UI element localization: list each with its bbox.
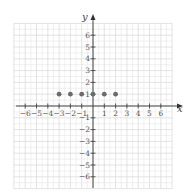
y-axis-label: y — [81, 11, 88, 22]
y-axis-arrow-icon — [91, 14, 96, 20]
y-tick-label: −1 — [79, 113, 90, 122]
y-tick-label: −5 — [79, 161, 90, 170]
y-tick-label: 4 — [85, 54, 90, 63]
coordinate-plane: −6−5−4−3−2−1123456−6−5−4−3−2−1123456 x y — [0, 0, 191, 196]
y-tick-label: 2 — [85, 78, 90, 87]
x-tick-label: 6 — [158, 109, 163, 118]
x-tick-label: −3 — [54, 109, 65, 118]
data-point — [102, 92, 107, 97]
axes — [16, 14, 183, 188]
x-tick-label: 5 — [147, 109, 152, 118]
x-axis-label: x — [177, 103, 183, 114]
data-point — [79, 92, 84, 97]
data-point — [91, 92, 96, 97]
data-point — [113, 92, 118, 97]
x-tick-label: 4 — [136, 109, 141, 118]
x-tick-label: −2 — [65, 109, 76, 118]
y-tick-label: 1 — [85, 90, 90, 99]
y-tick-label: −6 — [79, 172, 90, 181]
x-tick-label: 1 — [102, 109, 107, 118]
data-point — [57, 92, 62, 97]
x-tick-label: 2 — [113, 109, 118, 118]
y-tick-label: 6 — [85, 31, 90, 40]
x-tick-label: −4 — [42, 109, 53, 118]
y-tick-label: 5 — [85, 43, 90, 52]
y-tick-label: −3 — [79, 137, 90, 146]
data-point — [68, 92, 73, 97]
y-tick-label: −2 — [79, 125, 90, 134]
x-tick-label: −5 — [31, 109, 42, 118]
x-tick-label: 3 — [125, 109, 130, 118]
y-tick-label: −4 — [79, 149, 90, 158]
x-tick-label: −6 — [20, 109, 31, 118]
y-tick-label: 3 — [85, 66, 90, 75]
